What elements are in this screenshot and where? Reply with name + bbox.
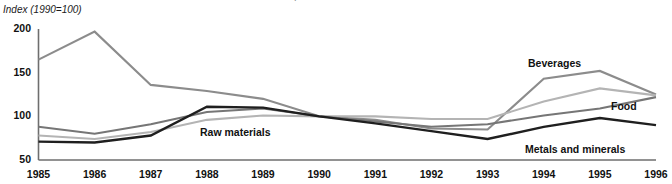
x-tick-1987: 1987 — [129, 168, 173, 180]
x-tick-1994: 1994 — [522, 168, 566, 180]
series-line-beverages — [39, 32, 657, 130]
y-tick-150: 150 — [1, 66, 31, 78]
x-tick-1991: 1991 — [353, 168, 397, 180]
series-lines — [39, 32, 657, 143]
series-label-metals-and-minerals: Metals and minerals — [525, 143, 625, 155]
series-label-raw-materials: Raw materials — [200, 126, 271, 138]
chart-axes — [39, 29, 657, 160]
x-tick-1990: 1990 — [297, 168, 341, 180]
x-tick-1995: 1995 — [578, 168, 622, 180]
y-tick-100: 100 — [1, 109, 31, 121]
y-tick-200: 200 — [1, 22, 31, 34]
series-label-beverages: Beverages — [528, 57, 581, 69]
x-tick-1989: 1989 — [241, 168, 285, 180]
x-tick-1996: 1996 — [634, 168, 672, 180]
y-tick-50: 50 — [1, 153, 31, 165]
x-tick-1985: 1985 — [17, 168, 61, 180]
x-tick-1993: 1993 — [466, 168, 510, 180]
series-label-food: Food — [611, 100, 637, 112]
x-tick-1992: 1992 — [409, 168, 453, 180]
x-tick-1988: 1988 — [185, 168, 229, 180]
x-tick-1986: 1986 — [73, 168, 117, 180]
